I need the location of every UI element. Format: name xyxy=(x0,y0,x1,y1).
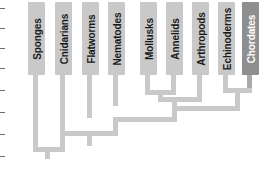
taxon-box-flatworms[interactable]: Flatworms xyxy=(82,2,99,75)
axis-tick xyxy=(0,134,5,135)
axis-tick xyxy=(0,90,5,91)
axis-tick xyxy=(0,28,5,29)
taxon-label-arthropods: Arthropods xyxy=(195,12,206,65)
node-stem-cnidarians-clade xyxy=(60,131,65,148)
taxon-box-mollusks[interactable]: Mollusks xyxy=(140,2,157,75)
taxon-box-nematodes[interactable]: Nematodes xyxy=(108,2,125,75)
axis-tick xyxy=(0,112,5,113)
taxon-box-sponges[interactable]: Sponges xyxy=(28,2,45,75)
taxon-label-echinoderms: Echinoderms xyxy=(221,7,232,69)
branch-stem-echinoderms xyxy=(223,75,228,88)
branch-stem-sponges xyxy=(33,75,38,148)
node-bar-nematodes xyxy=(113,117,177,122)
axis-tick xyxy=(0,68,5,69)
branch-stem-nematodes xyxy=(113,75,118,106)
branch-stem-annelids xyxy=(171,75,176,90)
node-stem-nematodes-clade xyxy=(113,117,118,132)
taxon-label-annelids: Annelids xyxy=(169,18,180,59)
root-stem xyxy=(45,147,50,159)
taxon-label-mollusks: Mollusks xyxy=(143,18,154,60)
axis-tick xyxy=(0,156,5,157)
taxon-label-sponges: Sponges xyxy=(31,18,42,60)
taxon-box-echinoderms[interactable]: Echinoderms xyxy=(218,2,235,75)
taxon-label-cnidarians: Cnidarians xyxy=(58,13,69,64)
branch-stem-chordates xyxy=(247,75,252,88)
axis-tick xyxy=(0,8,5,9)
taxon-label-nematodes: Nematodes xyxy=(111,12,122,65)
taxon-label-flatworms: Flatworms xyxy=(85,14,96,63)
taxon-box-cnidarians[interactable]: Cnidarians xyxy=(55,2,72,75)
cladogram-figure: Sponges Cnidarians Flatworms Nematodes M… xyxy=(0,0,262,172)
node-bar-lophotrochozoa-arthropods xyxy=(158,97,202,102)
branch-stem-arthropods xyxy=(197,75,202,97)
taxon-box-arthropods[interactable]: Arthropods xyxy=(192,2,209,75)
taxon-label-chordates: Chordates xyxy=(245,14,256,63)
axis-tick xyxy=(0,48,5,49)
taxon-box-chordates[interactable]: Chordates xyxy=(242,2,259,75)
branch-stem-mollusks xyxy=(145,75,150,90)
branch-stem-flatworms xyxy=(87,75,92,118)
node-stem-echinoderms-chordates xyxy=(235,88,240,108)
node-bar-bilateria-crown xyxy=(172,106,240,111)
branch-stem-cnidarians xyxy=(60,75,65,132)
taxon-box-annelids[interactable]: Annelids xyxy=(166,2,183,75)
